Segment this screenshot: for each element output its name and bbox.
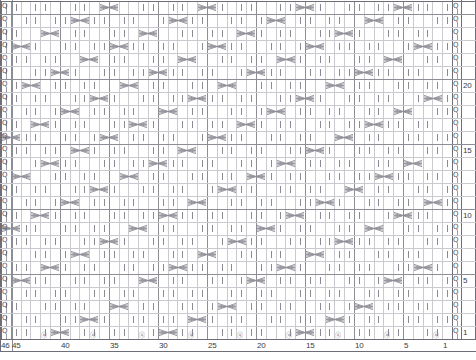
selvedge-tick [6,165,7,170]
purl-stitch-mark [84,121,85,128]
ruler-repeat-marker: ⓠ [139,332,145,338]
purl-stitch-mark [280,69,281,76]
purl-stitch-mark [251,329,252,336]
selvedge-tick [6,48,7,53]
purl-stitch-mark [84,4,85,11]
purl-stitch-mark [349,95,350,102]
x-axis-tick-label: 10 [355,341,363,350]
selvedge-tick [457,22,458,27]
purl-stitch-mark [329,303,330,310]
purl-stitch-mark [388,238,389,245]
purl-stitch-mark [182,238,183,245]
purl-stitch-mark [173,186,174,193]
purl-stitch-mark [310,69,311,76]
purl-stitch-mark [163,225,164,232]
purl-stitch-mark [418,212,419,219]
purl-stitch-mark [418,277,419,284]
purl-stitch-mark [388,4,389,11]
purl-stitch-mark [300,43,301,50]
purl-stitch-mark [173,199,174,206]
grid-line-horizontal [0,1,476,2]
purl-stitch-mark [359,277,360,284]
x-axis-tick-label: 46 [1,341,9,350]
ruler-bottom-border [0,351,476,352]
ruler-repeat-marker: ⓠ [41,332,47,338]
purl-stitch-mark [427,82,428,89]
purl-stitch-mark [35,4,36,11]
purl-stitch-mark [16,212,17,219]
purl-stitch-mark [55,290,56,297]
purl-stitch-mark [241,225,242,232]
purl-stitch-mark [271,43,272,50]
purl-stitch-mark [359,30,360,37]
selvedge-tick [457,48,458,53]
purl-stitch-mark [45,303,46,310]
purl-stitch-mark [104,69,105,76]
purl-stitch-mark [35,95,36,102]
purl-stitch-mark [26,225,27,232]
purl-stitch-mark [349,225,350,232]
purl-stitch-mark [143,186,144,193]
purl-stitch-mark [192,121,193,128]
purl-stitch-mark [329,290,330,297]
purl-stitch-mark [241,251,242,258]
purl-stitch-mark [104,251,105,258]
purl-stitch-mark [437,290,438,297]
purl-stitch-mark [437,316,438,323]
purl-stitch-mark [329,30,330,37]
purl-stitch-mark [94,238,95,245]
purl-stitch-mark [369,290,370,297]
cable-cross-symbol [325,313,345,326]
purl-stitch-mark [231,147,232,154]
selvedge-tick [6,204,7,209]
selvedge-tick [6,191,7,196]
purl-stitch-mark [55,173,56,180]
purl-stitch-mark [339,160,340,167]
purl-stitch-mark [261,147,262,154]
purl-stitch-mark [300,17,301,24]
purl-stitch-mark [16,264,17,271]
purl-stitch-mark [75,277,76,284]
selvedge-tick [457,321,458,326]
selvedge-tick [457,126,458,131]
purl-stitch-mark [45,4,46,11]
selvedge-tick [6,126,7,131]
purl-stitch-mark [378,4,379,11]
purl-stitch-mark [84,212,85,219]
purl-stitch-mark [65,17,66,24]
selvedge-tick [457,295,458,300]
ruler-repeat-marker: ⓠ [237,332,243,338]
purl-stitch-mark [202,108,203,115]
purl-stitch-mark [133,43,134,50]
purl-stitch-mark [173,69,174,76]
purl-stitch-mark [271,316,272,323]
purl-stitch-mark [163,17,164,24]
purl-stitch-mark [329,238,330,245]
selvedge-tick [457,87,458,92]
purl-stitch-mark [339,225,340,232]
purl-stitch-mark [369,329,370,336]
purl-stitch-mark [349,251,350,258]
cable-cross-symbol [70,248,90,261]
purl-stitch-mark [35,316,36,323]
purl-stitch-mark [55,199,56,206]
purl-stitch-mark [124,290,125,297]
selvedge-tick [457,113,458,118]
cable-cross-symbol [227,235,247,248]
purl-stitch-mark [182,212,183,219]
purl-stitch-mark [104,43,105,50]
purl-stitch-mark [26,238,27,245]
purl-stitch-mark [65,134,66,141]
purl-stitch-mark [45,251,46,258]
purl-stitch-mark [241,95,242,102]
purl-stitch-mark [231,329,232,336]
selvedge-tick [6,295,7,300]
purl-stitch-mark [163,199,164,206]
purl-stitch-mark [398,329,399,336]
selvedge-tick [457,152,458,157]
purl-stitch-mark [280,134,281,141]
purl-stitch-mark [418,186,419,193]
purl-stitch-mark [94,225,95,232]
purl-stitch-mark [320,329,321,336]
purl-stitch-mark [55,121,56,128]
